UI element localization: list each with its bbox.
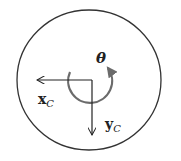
y-axis-label: yC	[104, 116, 121, 134]
x-axis-label: xC	[38, 91, 54, 109]
rotation-arrow-icon	[68, 68, 112, 103]
theta-label: θ	[96, 49, 106, 67]
diagram-canvas: θ xC yC	[0, 0, 181, 161]
